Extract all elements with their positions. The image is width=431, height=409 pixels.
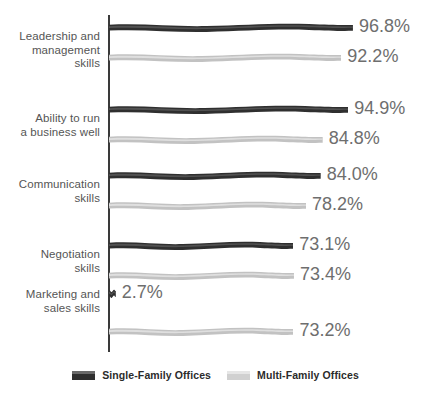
legend-label-single-family: Single-Family Offices — [102, 369, 211, 381]
legend-label-multi-family: Multi-Family Offices — [257, 369, 359, 381]
bar-multi-family[interactable] — [109, 134, 323, 145]
value-label: 96.8% — [359, 17, 410, 35]
bar-multi-family[interactable] — [109, 52, 341, 63]
value-label: 84.8% — [329, 129, 380, 147]
bar-single-family[interactable] — [109, 240, 293, 251]
bar-multi-family[interactable] — [109, 200, 306, 211]
value-label: 73.4% — [300, 265, 351, 283]
value-label: 78.2% — [312, 195, 363, 213]
value-label: 84.0% — [327, 165, 378, 183]
category-label: Negotiation skills — [0, 248, 100, 275]
legend-item-single-family[interactable]: Single-Family Offices — [72, 369, 211, 381]
value-label: 2.7% — [122, 283, 163, 301]
legend-item-multi-family[interactable]: Multi-Family Offices — [227, 369, 359, 381]
vertical-axis-line — [108, 15, 110, 352]
category-label: Marketing and sales skills — [0, 288, 100, 315]
value-label: 92.2% — [347, 47, 398, 65]
legend-swatch-dark-icon — [72, 371, 95, 380]
category-label: Ability to run a business well — [0, 112, 100, 139]
category-label: Leadership and management skills — [0, 30, 100, 71]
legend-swatch-light-icon — [227, 371, 250, 380]
bar-single-family[interactable] — [109, 22, 353, 33]
bar-chart: Leadership and management skills96.8%92.… — [0, 0, 431, 409]
value-label: 73.2% — [299, 321, 350, 339]
bar-multi-family[interactable] — [109, 326, 293, 337]
value-label: 73.1% — [299, 235, 350, 253]
bar-multi-family[interactable] — [109, 270, 294, 281]
bar-single-family[interactable] — [109, 104, 348, 115]
bar-single-family[interactable] — [109, 288, 116, 299]
chart-legend: Single-Family Offices Multi-Family Offic… — [0, 369, 431, 381]
category-label: Communication skills — [0, 178, 100, 205]
value-label: 94.9% — [354, 99, 405, 117]
bar-single-family[interactable] — [109, 170, 321, 181]
